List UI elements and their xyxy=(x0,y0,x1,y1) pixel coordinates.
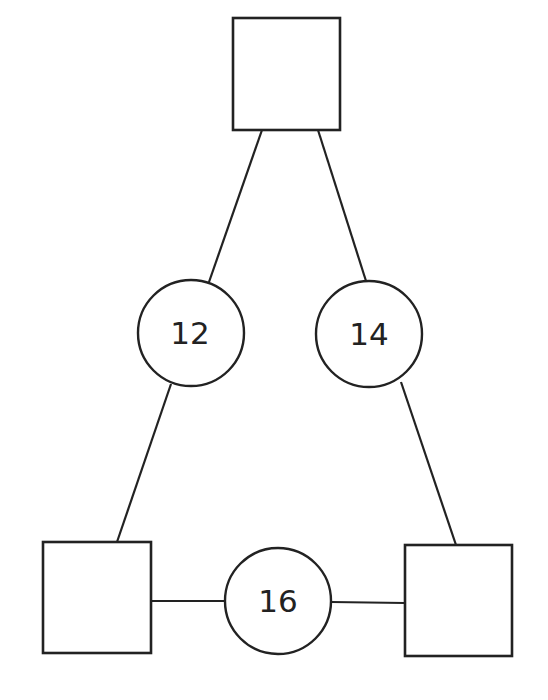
right-circle-value: 14 xyxy=(349,316,388,352)
edge-bottom-circle-to-bottom-right xyxy=(331,602,405,603)
top-square[interactable] xyxy=(233,18,340,130)
edge-top-to-right-circle xyxy=(318,130,366,281)
bottom-circle: 16 xyxy=(225,548,331,654)
edge-right-circle-to-bottom-right xyxy=(401,382,456,545)
left-circle-value: 12 xyxy=(170,315,209,351)
edge-top-to-left-circle xyxy=(209,130,262,282)
edge-left-circle-to-bottom-left xyxy=(117,384,171,542)
bottom-right-square[interactable] xyxy=(405,545,512,656)
number-triangle-diagram: 12 14 16 xyxy=(0,0,548,700)
right-circle: 14 xyxy=(316,281,422,387)
bottom-left-square[interactable] xyxy=(43,542,151,653)
bottom-circle-value: 16 xyxy=(258,583,297,619)
left-circle: 12 xyxy=(138,280,244,386)
